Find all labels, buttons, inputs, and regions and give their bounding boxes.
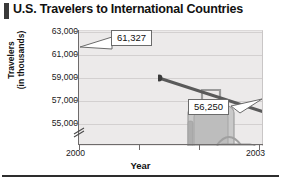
x-tick-mark <box>199 145 200 150</box>
title-row: U.S. Travelers to International Countrie… <box>0 2 281 22</box>
bottom-divider <box>2 175 279 177</box>
callout-leader-end <box>228 96 264 114</box>
y-axis-title-line1: Travelers <box>6 15 16 105</box>
data-label-start: 61,327 <box>111 30 152 46</box>
y-axis-tick-labels: 63,000 61,000 59,000 57,000 55,000 <box>38 26 78 136</box>
axis-break-icon <box>71 125 87 141</box>
callout-leader-start <box>79 36 115 52</box>
x-tick-mark <box>139 145 140 150</box>
data-label-end: 56,250 <box>188 99 229 115</box>
gridline <box>79 55 262 56</box>
x-tick-label: 2000 <box>66 148 85 158</box>
x-axis-title: Year <box>0 160 281 171</box>
page-title: U.S. Travelers to International Countrie… <box>13 2 243 16</box>
x-tick-label: 2003 <box>246 148 265 158</box>
x-axis-line <box>79 144 263 145</box>
gridline <box>79 32 262 33</box>
y-axis-title: Travelers (in thousands) <box>6 15 34 105</box>
y-axis-title-line2: (in thousands) <box>16 15 26 105</box>
chart-figure: U.S. Travelers to International Countrie… <box>0 0 281 181</box>
